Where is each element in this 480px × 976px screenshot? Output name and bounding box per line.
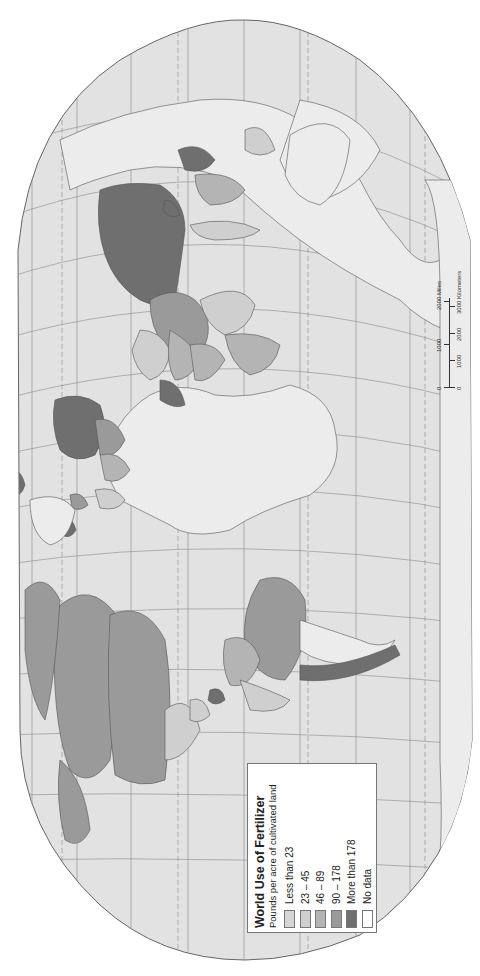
legend-label: 46 – 89 [315, 871, 326, 904]
scale-label-km: 1000 [456, 355, 462, 368]
scale-label-km: 0 [456, 387, 462, 390]
usa [108, 611, 170, 784]
scale-tick [449, 306, 455, 307]
legend-content: World Use of Fertilizer Pounds per acre … [248, 764, 378, 934]
legend-item: Less than 23 [282, 770, 298, 928]
scale-label-km: 3000 Kilometers [456, 271, 462, 314]
scale-tick [444, 344, 450, 345]
legend-swatch [331, 910, 342, 928]
legend-label: 23 – 45 [300, 871, 311, 904]
legend-item: More than 178 [344, 770, 360, 928]
legend-label: No data [362, 869, 373, 904]
legend-swatch [284, 910, 295, 928]
scale-tick [449, 333, 455, 334]
scale-label-miles: 1000 [436, 339, 442, 352]
legend-swatch [362, 910, 373, 928]
legend-item: No data [360, 770, 376, 928]
legend-label: 90 – 178 [331, 865, 342, 904]
legend-item: 23 – 45 [298, 770, 314, 928]
legend-swatch [346, 910, 357, 928]
scale-label-miles: 2000 Miles [436, 281, 442, 310]
legend-item: 90 – 178 [329, 770, 345, 928]
world-fertilizer-map [0, 0, 480, 976]
scale-tick [449, 387, 455, 388]
scale-bar: 0 1000 2000 Miles 0 1000 2000 3000 Kilom… [430, 250, 470, 410]
legend: World Use of Fertilizer Pounds per acre … [247, 763, 377, 933]
scale-bar-content: 0 1000 2000 Miles 0 1000 2000 3000 Kilom… [430, 250, 470, 410]
scale-label-miles: 0 [436, 387, 442, 390]
legend-swatch [300, 910, 311, 928]
legend-label: Less than 23 [284, 847, 295, 904]
legend-label: More than 178 [346, 840, 357, 905]
legend-subtitle: Pounds per acre of cultivated land [267, 770, 278, 928]
scale-tick [444, 301, 450, 302]
scale-line [449, 298, 450, 388]
scale-tick [449, 360, 455, 361]
scale-label-km: 2000 [456, 328, 462, 341]
legend-title: World Use of Fertilizer [253, 770, 267, 928]
legend-item: 46 – 89 [313, 770, 329, 928]
legend-swatch [315, 910, 326, 928]
